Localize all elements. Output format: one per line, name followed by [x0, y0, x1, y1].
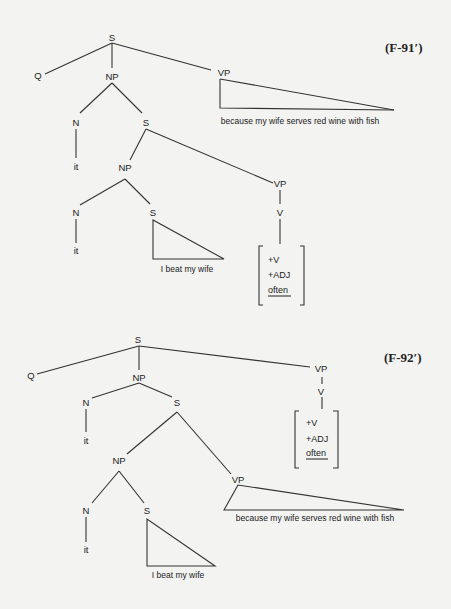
- edge-s-innervp: [146, 129, 273, 183]
- feature-plus-adj: +ADJ: [306, 434, 328, 444]
- node-s: S: [143, 117, 149, 128]
- syntax-trees-diagram: (F-91′) S Q NP VP because my wife serves…: [0, 0, 451, 609]
- node-np: NP: [132, 372, 145, 383]
- inner-s-triangle: [153, 220, 224, 259]
- inner-s-text: I beat my wife: [161, 264, 214, 274]
- node-s: S: [174, 397, 180, 408]
- feature-often: often: [268, 285, 288, 295]
- edge-s-vp: [139, 346, 310, 367]
- node-vp: VP: [218, 67, 231, 78]
- node-s-root: S: [109, 32, 115, 43]
- feature-bracket-right: [300, 246, 304, 305]
- node-n: N: [73, 117, 80, 128]
- figure-label-f91: (F-91′): [385, 40, 423, 55]
- leaf-it: it: [74, 161, 79, 172]
- edge-innernp-n: [80, 179, 125, 205]
- tree-f91: (F-91′) S Q NP VP because my wife serves…: [34, 32, 422, 305]
- vp-text: because my wife serves red wine with fis…: [221, 116, 380, 126]
- node-inner-n: N: [83, 505, 90, 516]
- edge-innernp-s: [119, 471, 144, 503]
- node-inner-np: NP: [112, 455, 125, 466]
- node-v: V: [277, 207, 284, 218]
- feature-bracket-left: [259, 246, 263, 305]
- tree-f92: (F-92′) S Q NP VP V +V +ADJ often N S it…: [27, 334, 421, 580]
- edge-np-s: [139, 383, 172, 397]
- edge-s-innervp: [177, 412, 231, 474]
- feature-plus-adj: +ADJ: [268, 270, 290, 280]
- node-inner-s: S: [150, 207, 156, 218]
- feature-bracket-right: [333, 411, 338, 468]
- node-n: N: [83, 397, 90, 408]
- node-vp: VP: [315, 363, 328, 374]
- edge-s-innernp: [127, 412, 177, 454]
- node-inner-np: NP: [118, 162, 131, 173]
- edge-np-n: [80, 83, 112, 113]
- node-s-root: S: [135, 334, 141, 345]
- leaf-it: it: [84, 435, 89, 446]
- edge-s-innernp: [130, 129, 146, 160]
- figure-label-f92: (F-92′): [384, 350, 422, 365]
- leaf-inner-it: it: [74, 245, 79, 256]
- inner-s-text: I beat my wife: [152, 570, 205, 580]
- edge-s-q: [37, 346, 139, 374]
- node-q: Q: [27, 370, 34, 381]
- inner-vp-text: because my wife serves red wine with fis…: [236, 513, 395, 523]
- node-inner-vp: VP: [274, 178, 287, 189]
- node-inner-s: S: [144, 505, 150, 516]
- node-v: V: [318, 386, 325, 397]
- feature-plus-v: +V: [268, 255, 279, 265]
- leaf-inner-it: it: [84, 544, 89, 555]
- edge-innernp-n: [92, 471, 119, 503]
- edge-np-n: [92, 383, 139, 398]
- edge-s-q: [45, 43, 112, 74]
- inner-s-triangle: [147, 519, 215, 566]
- node-q: Q: [34, 70, 41, 81]
- node-inner-n: N: [73, 207, 80, 218]
- edge-np-s: [112, 83, 142, 113]
- node-np: NP: [105, 71, 118, 82]
- feature-often: often: [306, 448, 326, 458]
- edge-innernp-s: [125, 179, 150, 204]
- edge-s-vp: [112, 43, 211, 70]
- feature-bracket-left: [295, 411, 299, 468]
- node-inner-vp: VP: [232, 474, 245, 485]
- feature-plus-v: +V: [306, 418, 317, 428]
- inner-vp-triangle: [224, 485, 404, 510]
